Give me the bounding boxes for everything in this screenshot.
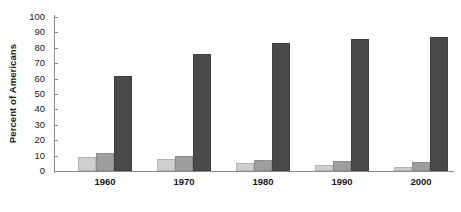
x-axis-label-1990: 1990: [302, 176, 382, 187]
bar-1990-series-3: [351, 39, 369, 171]
y-tick-label: 70: [34, 57, 45, 68]
bar-1960-series-1: [78, 157, 96, 171]
bar-1980-series-1: [236, 163, 254, 171]
y-tick-label: 0: [40, 165, 45, 176]
y-tick-label: 80: [34, 42, 45, 53]
bar-1970-series-2: [175, 156, 193, 171]
bar-group-bars: [236, 17, 290, 171]
bar-2000-series-3: [430, 37, 448, 171]
bar-group-bars: [394, 17, 448, 171]
bar-1960-series-2: [96, 153, 114, 171]
y-tick-label: 30: [34, 119, 45, 130]
bar-1970-series-1: [157, 159, 175, 171]
x-axis-label-1980: 1980: [223, 176, 303, 187]
y-tick-label: 20: [34, 134, 45, 145]
bar-1980-series-2: [254, 160, 272, 171]
x-axis-label-1970: 1970: [144, 176, 224, 187]
plot-area: [54, 17, 450, 171]
y-tick-mark: [54, 171, 58, 172]
bar-group-bars: [315, 17, 369, 171]
bar-2000-series-1: [394, 167, 412, 171]
bar-1960-series-3: [114, 76, 132, 171]
x-axis-line: [54, 171, 454, 172]
y-tick-label: 100: [29, 11, 45, 22]
y-tick-label: 40: [34, 103, 45, 114]
bar-1970-series-3: [193, 54, 211, 171]
bar-1990-series-2: [333, 161, 351, 171]
y-tick-label: 90: [34, 26, 45, 37]
y-axis-title: Percent of Americans: [7, 24, 18, 164]
bar-chart: Percent of Americans 0102030405060708090…: [0, 0, 461, 212]
x-axis-label-1960: 1960: [65, 176, 145, 187]
bar-1990-series-1: [315, 165, 333, 171]
bar-group-bars: [157, 17, 211, 171]
bar-group-bars: [78, 17, 132, 171]
bar-1980-series-3: [272, 43, 290, 171]
bar-2000-series-2: [412, 162, 430, 171]
y-tick-label: 10: [34, 150, 45, 161]
x-axis-label-2000: 2000: [381, 176, 461, 187]
y-tick-label: 50: [34, 88, 45, 99]
y-tick-label: 60: [34, 73, 45, 84]
